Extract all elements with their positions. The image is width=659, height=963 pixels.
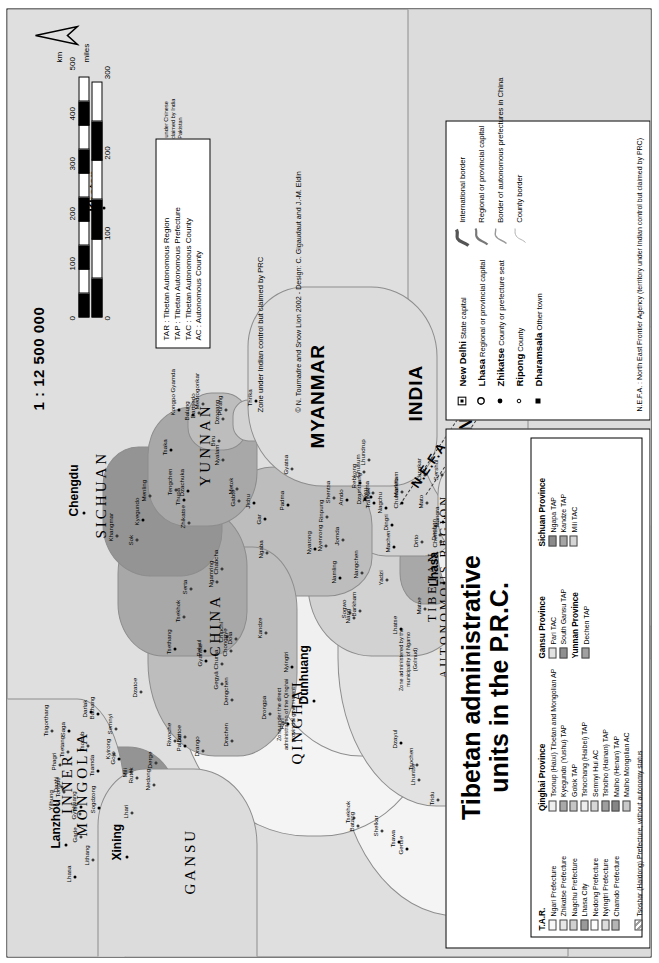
legend-item-label: Golok TAP [570, 763, 577, 796]
symbol-line-label: County border [514, 174, 523, 222]
map-town-label: Nyima [363, 480, 369, 498]
legend-item-label: Semnyi Hui AC [591, 749, 598, 796]
map-town-dot [220, 567, 223, 570]
map-town-dot [263, 517, 266, 520]
legend-item-label: Lhasa City [580, 883, 587, 916]
legend-swatch-icon [622, 800, 630, 811]
map-town-dot [441, 520, 444, 523]
legend-column-1: T.A.R.Ngari PrefectureZhikatse Prefectur… [535, 821, 631, 930]
legend-group-header: T.A.R. [537, 821, 546, 930]
scale-segment-miles [91, 198, 102, 238]
map-town-dot [371, 491, 374, 494]
abbreviation-row: TAP : Tibetan Autonomous Prefecture [172, 146, 183, 340]
map-city-label: Lhasa [427, 551, 439, 586]
map-town-label: Drito [412, 534, 418, 547]
map-town-label: Tsaka [161, 439, 167, 455]
other-town-icon [533, 391, 542, 411]
legend-item-label: Tsholho (Hainan) TAP [601, 729, 608, 797]
abbreviations-box: TAR : Tibetan Autonomous RegionTAP : Tib… [155, 138, 210, 348]
map-town-label: Dingri [382, 514, 388, 530]
legend-item: Kandze TAP [558, 444, 569, 546]
legend-item: Tsonup (Haixi) Tibetan and Mongolian AP [547, 668, 558, 810]
regional-border-icon [473, 227, 489, 247]
map-town-label: Nagchu [376, 492, 382, 513]
symbol-place-row: New Delhi State capital [455, 259, 468, 411]
map-town-label: Tengchen [166, 468, 172, 495]
map-town-label: Nyenrong [316, 524, 322, 551]
map-town-dot [229, 649, 232, 652]
scale-unit-km: km [54, 51, 63, 62]
map-town-label: Gertse [397, 835, 403, 854]
map-town-label: Gade [71, 827, 77, 842]
symbol-legend-panel: New Delhi State capitalLhasa Regional or… [445, 120, 650, 420]
legend-swatch-icon [580, 800, 588, 811]
map-town-label: Nedong [144, 768, 150, 790]
map-town-dot [417, 778, 420, 781]
legend-swatch-icon [548, 800, 556, 811]
scale-segment [78, 172, 89, 197]
map-town-dot [290, 665, 293, 668]
map-town-dot [345, 498, 348, 501]
map-town-dot [439, 540, 442, 543]
map-town-dot [237, 499, 240, 502]
map-town-dot [440, 473, 443, 476]
map-town-label: Shentsa [324, 480, 330, 503]
map-town-label: Semnyi [106, 713, 112, 734]
map-town-dot [400, 501, 403, 504]
map-town-label: Dengchen [222, 677, 228, 705]
legend-group-header: Sichuan Province [537, 444, 546, 546]
map-town-dot [230, 698, 233, 701]
symbol-legend-content: New Delhi State capitalLhasa Regional or… [455, 77, 544, 411]
prefecture-seat-icon [495, 391, 504, 411]
abbreviation-row: AC : Autonomous County [193, 146, 204, 340]
county-border-icon [511, 227, 527, 247]
map-town-dot [182, 615, 185, 618]
map-town-dot [415, 763, 418, 766]
map-town-dot [358, 609, 361, 612]
map-town-label: Ngaba [257, 540, 263, 558]
map-town-dot [352, 616, 355, 619]
map-town-label: Barkham [350, 591, 356, 616]
map-town-dot [385, 578, 388, 581]
rotated-map-canvas: INNER MONGOLIAGANSUQINGHAICHINASICHUANYU… [0, 0, 659, 963]
map-town-dot [220, 662, 223, 665]
legend-item: Malho (Henan) TAP [610, 668, 621, 810]
scale-km-tick: 500 [67, 57, 76, 70]
map-town-label: Shelkar [372, 815, 378, 836]
map-town-dot [220, 682, 223, 685]
map-town-dot [117, 757, 120, 760]
legend-item-label: Nedong Prefecture [591, 857, 598, 916]
map-town-label: Rutok [127, 767, 133, 783]
north-arrow-icon [33, 22, 83, 48]
map-town-label: Yilhung [47, 790, 53, 810]
map-town-label: Gyelthang [70, 791, 76, 819]
scale-segment-miles [91, 159, 102, 199]
map-town-dot [405, 847, 408, 850]
map-town-dot [221, 458, 224, 461]
map-title: Tibetan administrative units in the P.R.… [456, 441, 512, 933]
map-town-label: Chuma [212, 649, 218, 669]
scale-segment [78, 220, 89, 245]
map-town-dot [423, 607, 426, 610]
scale-km-ticks: 0100200300400500 [67, 56, 78, 316]
scale-segment [78, 148, 89, 173]
legend-item-label: South Gansu TAP [559, 588, 566, 644]
map-town-label: Lithang [83, 845, 89, 865]
map-town-dot [325, 515, 328, 518]
map-town-label: Nyarong [305, 531, 311, 554]
legend-item-label: Zhikatse Prefecture [559, 855, 566, 916]
map-town-dot [360, 571, 363, 574]
legend-swatch-icon [569, 919, 577, 930]
regional-capital-icon [476, 391, 485, 411]
map-town-dot [58, 763, 61, 766]
map-town-dot [169, 448, 172, 451]
map-town-dot [67, 729, 70, 732]
map-town-label: Kyirong [104, 738, 110, 759]
map-town-dot [115, 534, 118, 537]
map-town-label: Lhatse [391, 615, 397, 634]
legend-item: Tshochang (Haibei) TAP [579, 668, 590, 810]
legend-item-label: Kandze TAP [559, 493, 566, 532]
map-city-dot [64, 843, 67, 846]
legend-item-label: Nyingtri Prefecture [601, 858, 608, 916]
map-town-dot [186, 489, 189, 492]
